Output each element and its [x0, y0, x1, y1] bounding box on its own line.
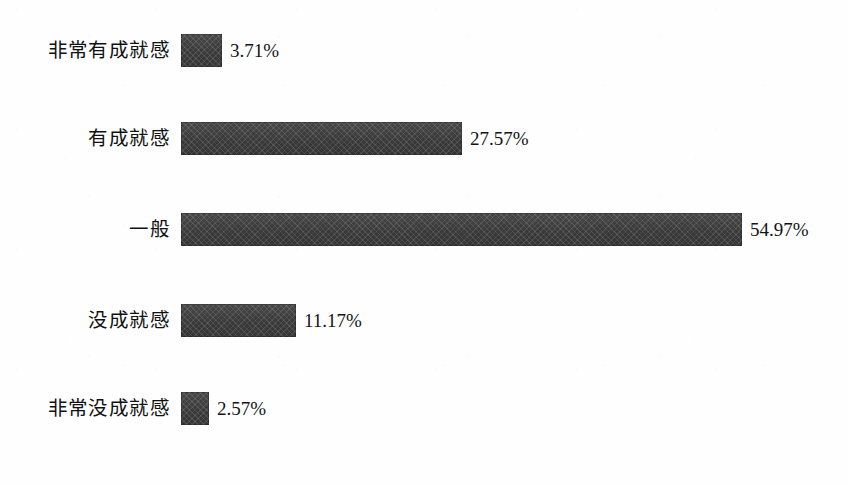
value-label: 3.71% [230, 41, 279, 60]
bar-row: 有成就感 27.57% [0, 122, 848, 155]
category-label: 非常没成就感 [0, 399, 170, 419]
value-label: 54.97% [750, 220, 809, 239]
horizontal-bar-chart: 非常有成就感 3.71% 有成就感 27.57% 一般 54.97% 没成就感 … [0, 0, 848, 485]
category-label: 有成就感 [0, 129, 170, 149]
bar-segment[interactable] [181, 392, 209, 425]
bar-row: 非常有成就感 3.71% [0, 34, 848, 67]
bar-row: 没成就感 11.17% [0, 304, 848, 337]
bar-segment[interactable] [181, 213, 742, 246]
bar-container: 54.97% [181, 213, 809, 246]
value-label: 2.57% [217, 399, 266, 418]
value-label: 11.17% [304, 311, 362, 330]
category-label: 一般 [0, 220, 170, 240]
bar-segment[interactable] [181, 122, 462, 155]
bar-container: 2.57% [181, 392, 266, 425]
bar-segment[interactable] [181, 34, 222, 67]
bar-container: 27.57% [181, 122, 529, 155]
value-label: 27.57% [470, 129, 529, 148]
category-label: 没成就感 [0, 311, 170, 331]
bar-row: 非常没成就感 2.57% [0, 392, 848, 425]
bar-row: 一般 54.97% [0, 213, 848, 246]
bar-container: 11.17% [181, 304, 362, 337]
bar-container: 3.71% [181, 34, 279, 67]
category-label: 非常有成就感 [0, 41, 170, 61]
bar-segment[interactable] [181, 304, 296, 337]
